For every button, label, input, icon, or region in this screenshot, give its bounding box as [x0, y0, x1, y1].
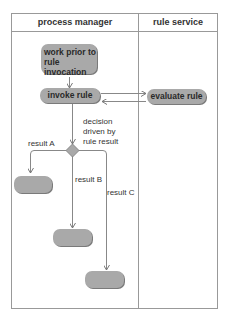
decision-note: decision driven by rule result	[83, 117, 118, 147]
decision-diamond	[66, 144, 79, 157]
edge-label-result-c: result C	[107, 188, 135, 198]
diagram-lines	[0, 0, 226, 316]
node-work-prior-line2: rule invocation	[44, 57, 97, 77]
lane-header-process-manager: process manager	[12, 13, 138, 31]
node-invoke-rule: invoke rule	[40, 88, 100, 103]
node-work-prior: work prior to rule invocation	[41, 44, 97, 74]
edge-label-result-a: result A	[28, 139, 55, 149]
edge-label-result-b: result B	[75, 175, 102, 185]
decision-note-line3: rule result	[83, 137, 118, 147]
node-work-prior-line1: work prior to	[44, 47, 97, 57]
node-result-a	[14, 176, 52, 193]
decision-note-line2: driven by	[83, 127, 118, 137]
lane-header-rule-service: rule service	[139, 13, 217, 31]
node-result-b	[53, 229, 92, 246]
node-evaluate-rule: evaluate rule	[147, 89, 206, 104]
node-result-c	[85, 271, 124, 288]
decision-note-line1: decision	[83, 117, 118, 127]
